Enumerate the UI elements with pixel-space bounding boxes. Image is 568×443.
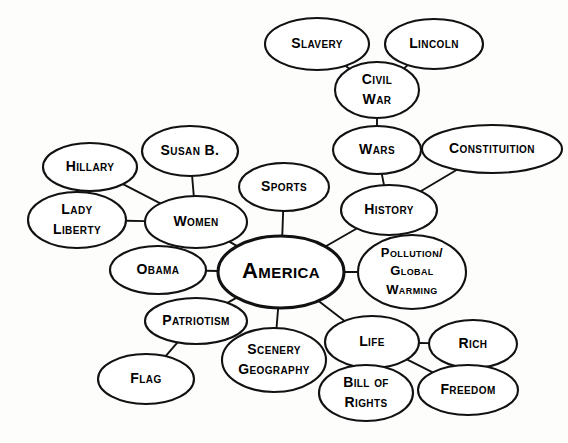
- node-label-hillary: Hillary: [66, 158, 115, 174]
- edge-scenery-to-america: [277, 308, 279, 328]
- mind-map-canvas: AmericaSlaveryLincolnCivilWarWarsConstit…: [0, 0, 568, 443]
- node-label-lady-liberty: Liberty: [53, 221, 101, 237]
- mind-map-diagram: AmericaSlaveryLincolnCivilWarWarsConstit…: [0, 0, 568, 443]
- node-lady-liberty[interactable]: LadyLiberty: [28, 192, 126, 248]
- node-slavery[interactable]: Slavery: [265, 18, 369, 70]
- node-label-freedom: Freedom: [440, 381, 495, 397]
- edge-history-to-america: [325, 229, 356, 247]
- node-wars[interactable]: Wars: [333, 126, 421, 174]
- node-constituition[interactable]: Constituition: [422, 125, 562, 173]
- node-label-rich: Rich: [459, 335, 488, 351]
- node-label-lincoln: Lincoln: [409, 35, 459, 51]
- node-label-slavery: Slavery: [291, 35, 343, 51]
- node-civil-war[interactable]: CivilWar: [335, 62, 419, 118]
- node-rich[interactable]: Rich: [429, 320, 517, 368]
- edge-constituition-to-history: [421, 170, 457, 191]
- node-women[interactable]: Women: [145, 196, 247, 248]
- node-obama[interactable]: Obama: [110, 246, 206, 294]
- edge-sports-to-america: [282, 211, 283, 236]
- node-sports[interactable]: Sports: [239, 163, 329, 211]
- edge-susan-b-to-women: [192, 176, 194, 196]
- node-label-civil-war: Civil: [362, 71, 392, 87]
- node-label-pollution: Pollution/: [381, 245, 443, 260]
- edge-hillary-to-women: [123, 184, 160, 203]
- node-label-sports: Sports: [261, 178, 307, 194]
- node-america[interactable]: America: [218, 236, 344, 308]
- edge-life-to-america: [319, 301, 345, 321]
- node-label-constituition: Constituition: [449, 140, 535, 156]
- node-label-patriotism: Patriotism: [162, 312, 230, 328]
- node-label-wars: Wars: [359, 141, 395, 157]
- node-layer: AmericaSlaveryLincolnCivilWarWarsConstit…: [28, 18, 562, 421]
- node-label-civil-war: War: [363, 91, 392, 107]
- node-label-history: History: [364, 201, 414, 217]
- edge-flag-to-patriotism: [166, 342, 178, 356]
- node-hillary[interactable]: Hillary: [43, 143, 137, 191]
- node-label-scenery: Scenery: [247, 341, 300, 357]
- node-patriotism[interactable]: Patriotism: [145, 298, 247, 344]
- edge-freedom-to-life: [407, 359, 433, 372]
- node-susan-b[interactable]: Susan B.: [142, 126, 238, 176]
- node-label-susan-b: Susan B.: [161, 142, 220, 158]
- node-label-scenery: Geography: [238, 361, 310, 377]
- node-label-flag: Flag: [130, 370, 161, 386]
- node-scenery[interactable]: SceneryGeography: [222, 328, 326, 392]
- node-flag[interactable]: Flag: [98, 354, 194, 404]
- node-lincoln[interactable]: Lincoln: [385, 19, 483, 69]
- node-label-life: Life: [359, 333, 385, 349]
- edge-wars-to-history: [382, 174, 384, 185]
- node-bill-of-rights[interactable]: Bill ofRights: [319, 365, 413, 421]
- node-label-america: America: [242, 258, 320, 283]
- node-label-bill-of-rights: Bill of: [343, 374, 389, 390]
- node-label-women: Women: [173, 213, 218, 229]
- node-label-pollution: Warming: [386, 282, 438, 297]
- node-freedom[interactable]: Freedom: [418, 365, 518, 415]
- node-label-lady-liberty: Lady: [61, 201, 92, 217]
- node-pollution[interactable]: Pollution/GlobalWarming: [358, 235, 466, 309]
- node-label-obama: Obama: [137, 261, 180, 277]
- node-label-bill-of-rights: Rights: [344, 394, 387, 410]
- node-history[interactable]: History: [341, 185, 437, 235]
- node-life[interactable]: Life: [325, 316, 419, 368]
- node-label-pollution: Global: [390, 263, 434, 278]
